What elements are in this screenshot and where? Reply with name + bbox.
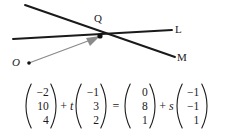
label-point-q: Q — [94, 13, 102, 24]
operator-equals: = — [108, 99, 123, 114]
left-paren-icon — [176, 83, 183, 129]
vector-entry: −1 — [187, 85, 199, 99]
vector-entry: −1 — [187, 99, 199, 113]
label-line-l: L — [175, 24, 182, 35]
left-paren-icon — [25, 83, 32, 129]
diagram-background — [0, 0, 233, 78]
vector-entry: −2 — [37, 85, 49, 99]
vector-entry: 8 — [142, 99, 148, 113]
vector-direction-m: −1−11 — [175, 83, 209, 129]
vector-direction-l: −132 — [74, 83, 108, 129]
scalar-parameter-s: s — [168, 99, 175, 114]
diagram-canvas — [0, 0, 233, 78]
vector-entry: 0 — [142, 85, 148, 99]
vector-equation: −2104+t−132=081+s−1−11 — [0, 78, 233, 134]
vector-entry: −1 — [87, 85, 99, 99]
operator-plus-2: + — [157, 99, 168, 114]
vector-entries: −132 — [82, 85, 100, 127]
vector-entry: 4 — [43, 113, 49, 127]
vector-entry: 10 — [37, 99, 49, 113]
left-paren-icon — [124, 83, 131, 129]
point-o-dot — [27, 61, 31, 65]
equation-row: −2104+t−132=081+s−1−11 — [24, 83, 208, 129]
figure-root: Q L M O −2104+t−132=081+s−1−11 — [0, 0, 233, 134]
left-paren-icon — [75, 83, 82, 129]
line-intersection-diagram: Q L M O — [0, 0, 233, 78]
vector-entry: 2 — [93, 113, 99, 127]
vector-entries: 081 — [131, 85, 149, 127]
vector-entries: −2104 — [32, 85, 50, 127]
vector-point-a: −2104 — [24, 83, 58, 129]
vector-point-b: 081 — [123, 83, 157, 129]
vector-entry: 1 — [193, 113, 199, 127]
right-paren-icon — [149, 83, 156, 129]
vector-entries: −1−11 — [183, 85, 201, 127]
vector-entry: 3 — [93, 99, 99, 113]
vector-entry: 1 — [142, 113, 148, 127]
right-paren-icon — [201, 83, 208, 129]
right-paren-icon — [100, 83, 107, 129]
operator-plus-1: + — [58, 99, 69, 114]
label-line-m: M — [177, 52, 187, 63]
point-q-dot — [97, 33, 102, 38]
right-paren-icon — [50, 83, 57, 129]
label-point-o: O — [12, 57, 20, 68]
